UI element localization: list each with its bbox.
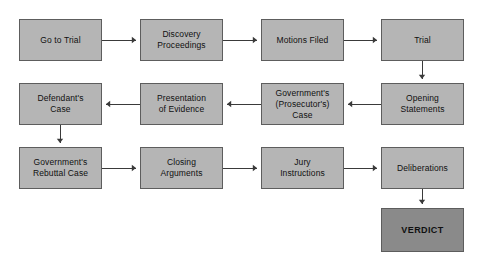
node-defendants-case[interactable]: Defendant's Case [19,83,102,125]
connector-deliberations--verdict [419,189,425,204]
node-deliberations[interactable]: Deliberations [381,147,464,189]
node-label-governments-case: Government's (Prosecutor's) Case [273,88,331,121]
node-governments-case[interactable]: Government's (Prosecutor's) Case [261,83,344,125]
flowchart-canvas: Go to TrialDiscovery ProceedingsMotions … [0,0,484,266]
connector-trial--opening-statements [419,61,425,79]
node-label-closing-arguments: Closing Arguments [158,157,204,179]
connector-defendants-case--governments-rebuttal [57,125,63,143]
node-trial[interactable]: Trial [381,19,464,61]
node-motions-filed[interactable]: Motions Filed [261,19,344,61]
node-jury-instructions[interactable]: Jury Instructions [261,147,344,189]
node-label-governments-rebuttal: Government's Rebuttal Case [31,157,90,179]
connector-opening-statements--governments-case [348,101,381,107]
node-verdict[interactable]: VERDICT [381,208,464,252]
connector-closing-arguments--jury-instructions [223,165,257,171]
connector-presentation-evidence--defendants-case [106,101,140,107]
node-presentation-evidence[interactable]: Presentation of Evidence [140,83,223,125]
node-label-opening-statements: Opening Statements [399,93,447,115]
connector-motions-filed--trial [344,37,377,43]
node-label-discovery-proceedings: Discovery Proceedings [155,29,207,51]
node-closing-arguments[interactable]: Closing Arguments [140,147,223,189]
node-go-to-trial[interactable]: Go to Trial [19,19,102,61]
node-label-deliberations: Deliberations [395,163,450,174]
connector-go-to-trial--discovery-proceedings [102,37,136,43]
node-label-jury-instructions: Jury Instructions [278,157,327,179]
connector-governments-case--presentation-evidence [227,101,261,107]
node-label-presentation-evidence: Presentation of Evidence [155,93,208,115]
node-label-go-to-trial: Go to Trial [38,35,82,46]
node-governments-rebuttal[interactable]: Government's Rebuttal Case [19,147,102,189]
node-label-trial: Trial [412,35,433,46]
node-label-verdict: VERDICT [399,225,445,236]
connector-jury-instructions--deliberations [344,165,377,171]
node-label-motions-filed: Motions Filed [275,35,331,46]
node-label-defendants-case: Defendant's Case [35,93,85,115]
node-opening-statements[interactable]: Opening Statements [381,83,464,125]
connector-discovery-proceedings--motions-filed [223,37,257,43]
node-discovery-proceedings[interactable]: Discovery Proceedings [140,19,223,61]
connector-governments-rebuttal--closing-arguments [102,165,136,171]
